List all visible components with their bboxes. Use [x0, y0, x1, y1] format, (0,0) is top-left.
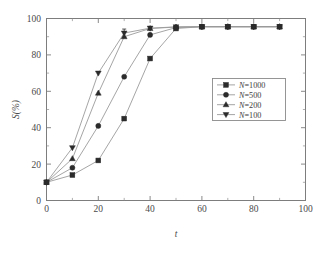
x-tick-label: 80 [249, 204, 259, 214]
y-tick-label: 60 [32, 87, 42, 97]
data-point-circle [148, 32, 153, 37]
y-tick-label: 100 [27, 14, 42, 24]
legend-label-N=200[interactable]: N=200 [238, 101, 261, 110]
y-tick-label: 20 [32, 160, 42, 170]
y-tick-label: 80 [32, 50, 42, 60]
x-axis-title: t [175, 229, 178, 239]
legend-marker-square[interactable] [224, 83, 229, 88]
y-axis-title: S(%) [11, 100, 22, 119]
data-point-circle [70, 165, 75, 170]
data-point-triangle-down [95, 71, 101, 76]
data-point-square [122, 116, 127, 121]
x-tick-label: 0 [44, 204, 49, 214]
y-tick-label: 40 [32, 123, 42, 133]
data-point-triangle-up [95, 90, 101, 95]
x-tick-label: 40 [145, 204, 155, 214]
data-point-square [148, 56, 153, 61]
data-point-triangle-up [70, 156, 76, 161]
data-point-square [70, 173, 75, 178]
data-point-circle [96, 123, 101, 128]
y-tick-label: 0 [36, 196, 41, 206]
data-point-triangle-down [121, 31, 127, 36]
data-point-square [96, 158, 101, 163]
data-point-circle [122, 74, 127, 79]
x-tick-label: 60 [197, 204, 207, 214]
chart-figure: 020406080100020406080100tS(%)N=1000N=500… [0, 0, 328, 257]
legend-label-N=500[interactable]: N=500 [238, 91, 261, 100]
legend-label-N=1000[interactable]: N=1000 [238, 81, 265, 90]
legend-label-N=100[interactable]: N=100 [238, 111, 261, 120]
x-tick-label: 20 [94, 204, 104, 214]
x-tick-label: 100 [298, 204, 313, 214]
legend-marker-circle[interactable] [223, 92, 228, 97]
chart-svg: 020406080100020406080100tS(%)N=1000N=500… [0, 0, 328, 257]
